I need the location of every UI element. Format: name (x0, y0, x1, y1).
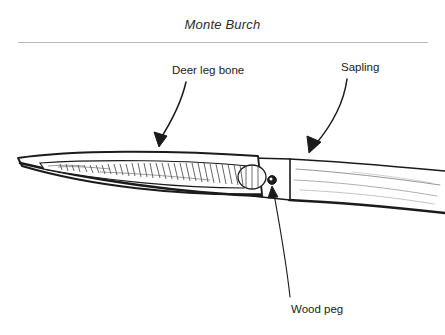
wood-peg (268, 176, 277, 185)
spear-diagram-figure (0, 0, 445, 335)
deer-leg-bone-arrow-line (159, 82, 186, 141)
label-deer-leg-bone: Deer leg bone (172, 64, 244, 77)
deer-leg-bone-arrowhead (154, 132, 167, 147)
sapling-callout-arrow (307, 79, 347, 153)
wood-peg-highlight (270, 178, 273, 181)
deer-leg-bone-blade (18, 152, 266, 196)
label-sapling: Sapling (341, 61, 379, 74)
sapling-arrowhead (307, 136, 321, 153)
wood-peg-leader-line (274, 194, 290, 297)
sapling-arrow-line (315, 79, 347, 145)
wood-peg-callout-arrow (268, 186, 290, 297)
document-page: Monte Burch (0, 0, 445, 335)
sapling-shaft (288, 159, 445, 213)
deer-leg-bone-callout-arrow (154, 82, 186, 147)
label-wood-peg: Wood peg (291, 303, 343, 316)
